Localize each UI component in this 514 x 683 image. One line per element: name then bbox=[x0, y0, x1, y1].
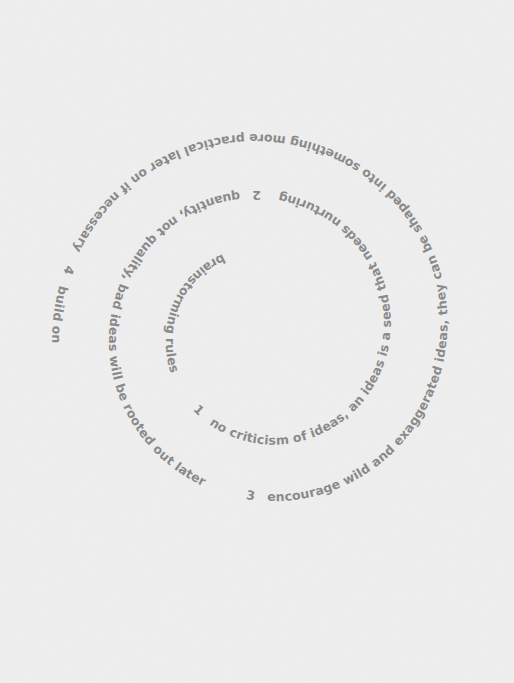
spiral-svg: brainstorming rules 1 no criticism of id… bbox=[0, 0, 514, 683]
spiral-poster: brainstorming rules 1 no criticism of id… bbox=[0, 0, 514, 683]
rule-2-number: 2 bbox=[252, 188, 261, 203]
